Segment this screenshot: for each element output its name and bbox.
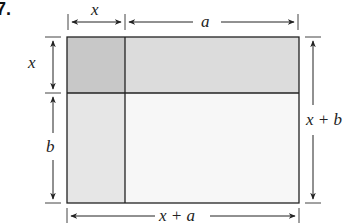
label-bottom-x-plus-a: x + a <box>158 206 195 223</box>
label-top-x: x <box>90 0 99 19</box>
label-left-x: x <box>27 53 36 72</box>
region-a-by-x <box>125 37 299 93</box>
problem-number: 7. <box>0 0 11 19</box>
area-model-diagram: 7. x a x b x + b x <box>0 0 352 223</box>
label-right-x-plus-b: x + b <box>305 110 342 129</box>
label-left-b: b <box>46 137 55 156</box>
top-dimension <box>68 14 298 30</box>
label-top-a: a <box>201 12 210 31</box>
left-dimension <box>45 37 61 203</box>
region-x-by-x <box>67 37 125 93</box>
region-a-by-b <box>125 93 299 203</box>
region-x-by-b <box>67 93 125 203</box>
